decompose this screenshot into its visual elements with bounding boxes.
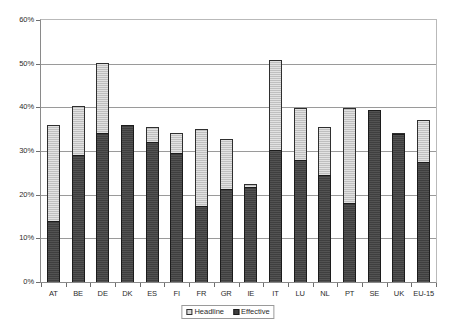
y-axis-tick-mark (36, 238, 40, 239)
chart-legend: Headline Effective (181, 305, 274, 319)
bar-segment-headline[interactable] (195, 129, 208, 206)
x-axis-tick-label: DE (90, 289, 115, 298)
stacked-bar[interactable] (294, 108, 307, 282)
bar-segment-headline[interactable] (318, 127, 331, 175)
bar-segment-effective[interactable] (417, 162, 430, 282)
bar-segment-effective[interactable] (368, 110, 381, 282)
x-axis-tick-label: LU (288, 289, 313, 298)
x-axis-tick-label: FR (189, 289, 214, 298)
bar-segment-effective[interactable] (72, 155, 85, 283)
bar-slot (244, 20, 257, 282)
x-axis-tick-label: NL (313, 289, 338, 298)
y-axis-tick-label: 50% (0, 60, 34, 68)
bar-segment-effective[interactable] (121, 125, 134, 282)
bar-segment-headline[interactable] (343, 108, 356, 202)
bar-segment-headline[interactable] (47, 125, 60, 221)
bar-slot (368, 20, 381, 282)
x-axis-tick-label: PT (337, 289, 362, 298)
bar-segment-effective[interactable] (96, 133, 109, 282)
stacked-bar[interactable] (195, 129, 208, 282)
bar-slot (195, 20, 208, 282)
stacked-bar[interactable] (146, 127, 159, 282)
bar-segment-effective[interactable] (146, 142, 159, 282)
y-axis-tick-label: 30% (0, 147, 34, 155)
stacked-bar[interactable] (318, 127, 331, 282)
bar-slot (220, 20, 233, 282)
bar-segment-headline[interactable] (72, 106, 85, 154)
bar-slot (96, 20, 109, 282)
bar-segment-headline[interactable] (96, 63, 109, 133)
bar-slot (294, 20, 307, 282)
x-axis-tick-label: AT (41, 289, 66, 298)
x-axis-tick-mark (263, 283, 264, 287)
effective-swatch-icon (233, 309, 239, 315)
stacked-bar[interactable] (417, 120, 430, 282)
stacked-bar[interactable] (368, 110, 381, 282)
stacked-bar-chart: Headline Effective 0%10%20%30%40%50%60%A… (0, 0, 456, 329)
y-axis-tick-mark (36, 20, 40, 21)
x-axis-tick-mark (288, 283, 289, 287)
legend-label-effective: Effective (241, 307, 270, 316)
stacked-bar[interactable] (392, 133, 405, 282)
x-axis-tick-mark (362, 283, 363, 287)
x-axis-tick-mark (337, 283, 338, 287)
x-axis-tick-mark (239, 283, 240, 287)
bar-slot (170, 20, 183, 282)
bar-slot (121, 20, 134, 282)
bar-segment-effective[interactable] (170, 153, 183, 282)
bar-slot (392, 20, 405, 282)
bar-segment-headline[interactable] (269, 60, 282, 150)
bar-slot (318, 20, 331, 282)
y-axis-tick-mark (36, 107, 40, 108)
stacked-bar[interactable] (96, 63, 109, 282)
x-axis-tick-label: GR (214, 289, 239, 298)
bar-segment-effective[interactable] (220, 189, 233, 282)
headline-swatch-icon (186, 309, 192, 315)
x-axis-tick-mark (411, 283, 412, 287)
legend-item-effective: Effective (233, 307, 270, 316)
x-axis-tick-mark (387, 283, 388, 287)
bar-segment-headline[interactable] (146, 127, 159, 142)
stacked-bar[interactable] (343, 108, 356, 282)
x-axis-tick-mark (115, 283, 116, 287)
bar-segment-effective[interactable] (244, 187, 257, 282)
bar-series-container (41, 20, 436, 282)
y-axis-tick-label: 0% (0, 278, 34, 286)
bar-segment-effective[interactable] (392, 134, 405, 282)
x-axis-tick-label: DK (115, 289, 140, 298)
x-axis-tick-mark (140, 283, 141, 287)
bar-segment-effective[interactable] (318, 175, 331, 282)
x-axis-tick-label: UK (387, 289, 412, 298)
bar-slot (72, 20, 85, 282)
bar-segment-effective[interactable] (269, 150, 282, 282)
stacked-bar[interactable] (220, 139, 233, 282)
bar-slot (417, 20, 430, 282)
bar-segment-headline[interactable] (220, 139, 233, 189)
bar-segment-headline[interactable] (170, 133, 183, 153)
bar-segment-effective[interactable] (47, 221, 60, 282)
bar-slot (146, 20, 159, 282)
stacked-bar[interactable] (269, 60, 282, 282)
bar-segment-headline[interactable] (294, 108, 307, 160)
x-axis-tick-label: SE (362, 289, 387, 298)
x-axis-tick-label: FI (164, 289, 189, 298)
y-axis-tick-label: 20% (0, 191, 34, 199)
x-axis-tick-label: IE (239, 289, 264, 298)
stacked-bar[interactable] (47, 125, 60, 282)
bar-segment-headline[interactable] (417, 120, 430, 162)
x-axis-tick-mark (66, 283, 67, 287)
stacked-bar[interactable] (170, 133, 183, 282)
y-axis-tick-mark (36, 282, 40, 283)
bar-segment-effective[interactable] (195, 206, 208, 282)
bar-segment-effective[interactable] (343, 203, 356, 282)
x-axis-tick-mark (90, 283, 91, 287)
y-axis-tick-mark (36, 151, 40, 152)
stacked-bar[interactable] (121, 125, 134, 282)
stacked-bar[interactable] (244, 184, 257, 282)
bar-slot (47, 20, 60, 282)
bar-slot (269, 20, 282, 282)
legend-item-headline: Headline (186, 307, 224, 316)
bar-segment-effective[interactable] (294, 160, 307, 282)
stacked-bar[interactable] (72, 106, 85, 282)
x-axis-tick-mark (164, 283, 165, 287)
